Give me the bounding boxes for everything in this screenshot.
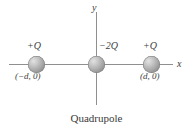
charge-label-right: +Q: [143, 41, 157, 51]
coordinate-label-right: (d, 0): [140, 72, 160, 81]
charge-label-left: +Q: [27, 41, 41, 51]
figure-caption: Quadrupole: [0, 113, 193, 124]
coordinate-label-left: (−d, 0): [15, 72, 41, 81]
charge-label-center: −2Q: [99, 41, 118, 51]
quadrupole-figure: x y +Q −2Q +Q (−d, 0) (d, 0) Quadrupole: [0, 0, 193, 134]
x-axis-label: x: [177, 59, 181, 69]
y-axis-label: y: [92, 3, 96, 13]
charge-sphere-center: [88, 56, 105, 73]
